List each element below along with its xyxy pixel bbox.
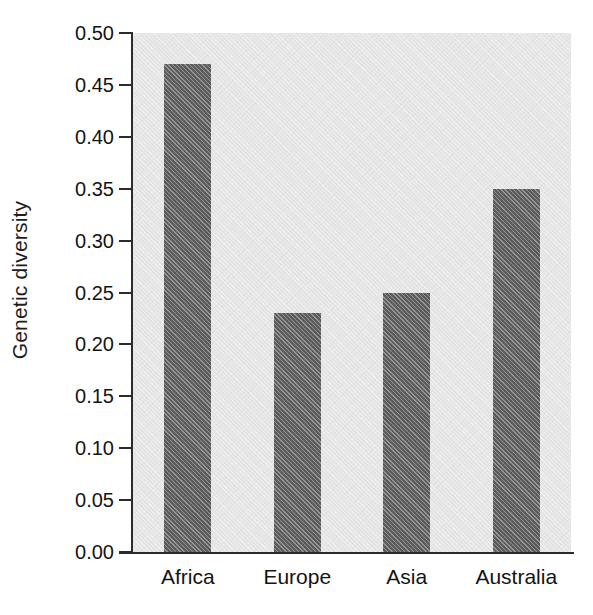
y-axis-tick-label: 0.15 [44, 385, 114, 408]
y-axis-tick-label: 0.35 [44, 177, 114, 200]
bar-asia [383, 293, 430, 553]
y-axis-line [131, 33, 133, 554]
y-axis-tick-label: 0.45 [44, 73, 114, 96]
plot-area [133, 33, 571, 552]
y-axis-tick-label: 0.25 [44, 281, 114, 304]
y-axis-tick-label: 0.30 [44, 229, 114, 252]
bar-australia [493, 189, 540, 552]
x-axis-tick-labels: AfricaEuropeAsiaAustralia [0, 565, 593, 605]
y-axis-label: Genetic diversity [0, 0, 40, 560]
bar-chart-figure: Genetic diversity 0.500.450.400.350.300.… [0, 0, 593, 615]
y-axis-label-text: Genetic diversity [8, 201, 32, 360]
bar-europe [274, 313, 321, 552]
y-axis-tick-label: 0.00 [44, 541, 114, 564]
y-axis-tick-label: 0.20 [44, 333, 114, 356]
y-axis-tick-label: 0.40 [44, 125, 114, 148]
x-axis-tick-label: Australia [475, 565, 557, 589]
x-axis-tick-label: Europe [263, 565, 331, 589]
y-axis-tick-label: 0.50 [44, 22, 114, 45]
x-axis-line [119, 552, 574, 554]
bar-africa [164, 64, 211, 552]
x-axis-tick-label: Asia [386, 565, 427, 589]
y-axis-tick-label: 0.10 [44, 437, 114, 460]
y-axis-tick-labels: 0.500.450.400.350.300.250.200.150.100.05… [44, 0, 114, 615]
x-axis-tick-label: Africa [161, 565, 215, 589]
y-axis-tick-label: 0.05 [44, 489, 114, 512]
